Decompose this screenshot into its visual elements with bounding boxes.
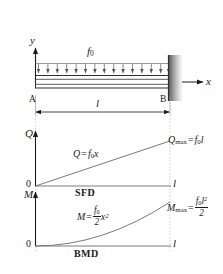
sfd-diagram-name: SFD <box>75 188 95 198</box>
sfd-shear-curve <box>36 141 171 186</box>
bmd-max-fraction: f0l2 2 <box>195 196 209 218</box>
bmd-axis-label: M <box>24 189 33 200</box>
bmd-end-tick-label: l <box>173 238 176 249</box>
beam-length-label: l <box>96 98 99 109</box>
bmd-formula-rhs-power: 2 <box>105 212 108 219</box>
beam-x-axis-label: x <box>206 76 211 87</box>
length-dimension-line <box>36 95 171 115</box>
sfd-max-rhs-var: l <box>201 134 204 145</box>
sfd-curve-formula: Q=f0x <box>73 149 99 160</box>
fixed-wall-support <box>168 55 182 101</box>
sfd-formula-rhs-var: x <box>94 148 98 159</box>
load-label-subscript: 0 <box>90 49 94 58</box>
distributed-load-arrows <box>39 64 169 73</box>
bmd-max-label: Mmax= f0l2 2 <box>167 196 208 218</box>
cantilever-beam-figure: y x f0 A B l Q 0 l Q=f0x Qmax=f0l SFD M … <box>0 0 223 274</box>
bmd-formula-equals: = <box>85 211 93 222</box>
bmd-formula-fraction-denominator: 2 <box>93 217 101 227</box>
bmd-origin-label: 0 <box>26 239 31 249</box>
sfd-axis-label: Q <box>25 128 33 139</box>
support-label-a: A <box>29 95 36 105</box>
bmd-max-fraction-denominator: 2 <box>195 208 209 218</box>
beam-panel <box>36 48 204 115</box>
sfd-max-label: Qmax=f0l <box>168 135 204 146</box>
bmd-diagram-name: BMD <box>74 249 99 259</box>
sfd-end-tick-label: l <box>173 178 176 189</box>
bmd-formula-fraction: f0 2 <box>93 206 101 227</box>
guide-lines <box>36 96 171 252</box>
distributed-load-label: f0 <box>87 46 94 58</box>
bmd-max-num-power: 2 <box>204 195 207 202</box>
bmd-max-equals: = <box>187 202 195 213</box>
bmd-curve-formula: M= f0 2 x2 <box>77 206 109 227</box>
bmd-max-lhs-subscript: max <box>175 206 187 213</box>
beam-y-axis-label: y <box>30 35 35 46</box>
bmd-frac-num-subscript: 0 <box>97 208 100 215</box>
bmd-max-fraction-numerator: f0l2 <box>195 196 209 208</box>
bmd-formula-fraction-numerator: f0 <box>93 206 101 217</box>
sfd-max-lhs-subscript: max <box>175 138 187 145</box>
beam-body <box>36 76 171 89</box>
support-label-b: B <box>160 95 166 105</box>
sfd-panel <box>36 131 172 186</box>
sfd-formula-equals: = <box>80 148 88 159</box>
sfd-max-equals: = <box>187 134 195 145</box>
